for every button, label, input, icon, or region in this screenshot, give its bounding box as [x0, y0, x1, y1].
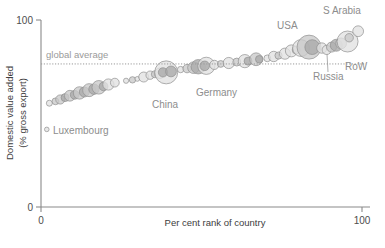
y-ticklabel-0: 0 — [27, 202, 33, 213]
bubble-luxembourg — [44, 127, 49, 132]
annotation-germany: Germany — [196, 87, 237, 98]
chart-container: 100 0 0 100 Per cent rank of country Dom… — [0, 0, 385, 248]
y-axis-title-line2: (% gross export) — [17, 78, 28, 148]
bubble-s-arabia — [353, 26, 364, 37]
annotation-china: China — [152, 99, 179, 110]
global-average-label: global average — [46, 49, 108, 60]
bubble-germany-inner — [200, 61, 210, 71]
annotation-row: RoW — [345, 61, 368, 72]
annotation-s-arabia: S Arabia — [323, 5, 361, 16]
x-ticklabel-100: 100 — [354, 215, 371, 226]
bubble-p15 — [123, 78, 128, 83]
y-ticklabel-100: 100 — [16, 15, 33, 26]
y-axis-title-line1: Domestic value added — [4, 66, 15, 160]
annotation-usa: USA — [277, 20, 298, 31]
bubble-p34 — [255, 55, 263, 63]
bubble-p22 — [166, 66, 177, 77]
x-ticklabel-0: 0 — [38, 215, 44, 226]
bubble-chart: 100 0 0 100 Per cent rank of country Dom… — [0, 0, 385, 248]
bubble-p46 — [345, 34, 353, 42]
bubble-p14 — [110, 78, 119, 87]
x-axis-title: Per cent rank of country — [165, 217, 266, 228]
bubble-p1 — [46, 100, 52, 106]
chart-background — [0, 0, 385, 248]
annotation-luxembourg: Luxembourg — [53, 125, 109, 136]
annotation-russia: Russia — [313, 71, 344, 82]
